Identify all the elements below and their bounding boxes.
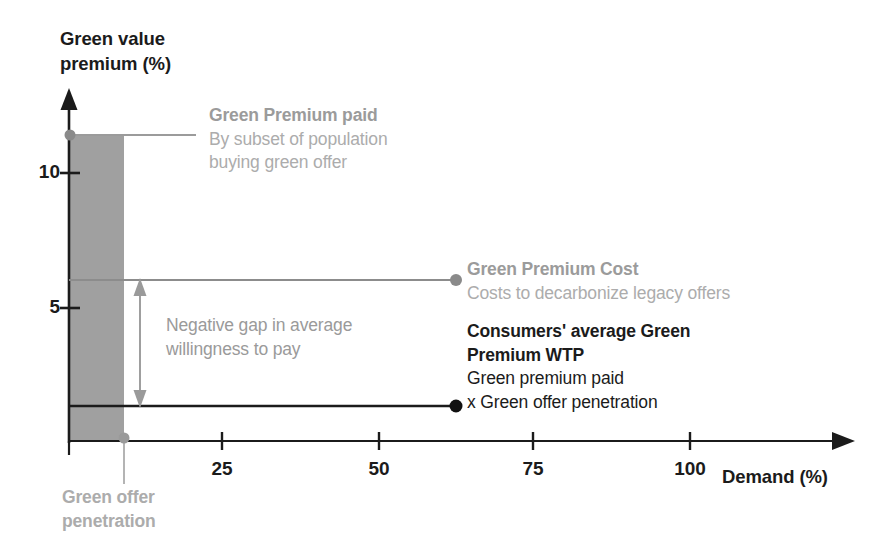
annotation-consumers-wtp: Consumers' average Green Premium WTP Gre… [467, 320, 867, 414]
annotation-green-premium-paid-heading: Green Premium paid [209, 104, 459, 128]
annotation-green-premium-paid-body: By subset of population buying green off… [209, 128, 459, 175]
y-axis-arrowhead [61, 88, 78, 110]
shaded-region-green-offer-penetration [69, 135, 124, 441]
series-marker-green-premium-paid [65, 130, 76, 141]
annotation-green-premium-cost-heading: Green Premium Cost [467, 258, 877, 282]
green-offer-penetration-marker [119, 433, 130, 444]
annotation-green-premium-paid: Green Premium paid By subset of populati… [209, 104, 459, 175]
annotation-consumers-wtp-body: Green premium paid x Green offer penetra… [467, 367, 867, 414]
annotation-green-premium-cost-body: Costs to decarbonize legacy offers [467, 282, 877, 306]
x-axis-arrowhead [832, 432, 855, 450]
annotation-green-offer-penetration: Green offer penetration [62, 485, 156, 533]
negative-gap-arrow [134, 278, 147, 408]
annotation-negative-gap: Negative gap in average willingness to p… [166, 313, 352, 361]
annotation-consumers-wtp-heading: Consumers' average Green Premium WTP [467, 320, 867, 367]
series-marker-consumers-wtp [450, 400, 463, 413]
series-marker-green-premium-cost [450, 274, 462, 286]
annotation-green-premium-cost: Green Premium Cost Costs to decarbonize … [467, 258, 877, 305]
chart-figure: Green value premium (%) Demand (%) 10 5 … [0, 0, 888, 559]
